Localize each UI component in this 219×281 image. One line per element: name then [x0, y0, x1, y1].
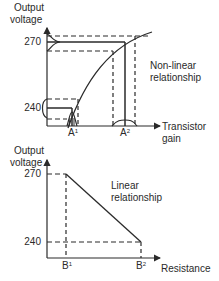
top-graph — [43, 28, 161, 128]
top-y-label-line1: Output — [14, 2, 44, 13]
top-x-label-line1: Transistor — [162, 121, 206, 132]
top-x-label-line2: gain — [162, 133, 181, 144]
bottom-y-tick-270: 270 — [11, 169, 41, 179]
top-annotation-line2: relationship — [150, 72, 201, 83]
bottom-y-label-line1: Output — [14, 145, 44, 156]
bottom-annotation-line2: relationship — [111, 192, 162, 203]
bottom-graph — [47, 160, 160, 258]
top-y-label-line2: voltage — [10, 14, 42, 25]
y-distribution-240 — [43, 99, 48, 118]
nonlinear-curve — [68, 32, 152, 128]
bottom-y-label-line2: voltage — [10, 157, 42, 168]
top-x-marker-A1: A1 — [68, 128, 78, 138]
bottom-x-label: Resistance — [161, 263, 210, 274]
top-y-tick-270: 270 — [11, 37, 41, 47]
bottom-x-marker-B1: B1 — [62, 261, 72, 271]
bottom-y-tick-240: 240 — [11, 237, 41, 247]
bottom-annotation-line1: Linear — [111, 180, 139, 191]
bottom-x-marker-B2: B2 — [136, 261, 146, 271]
top-annotation-line1: Non-linear — [150, 60, 196, 71]
top-x-marker-A2: A2 — [120, 128, 130, 138]
top-y-tick-240: 240 — [11, 103, 41, 113]
